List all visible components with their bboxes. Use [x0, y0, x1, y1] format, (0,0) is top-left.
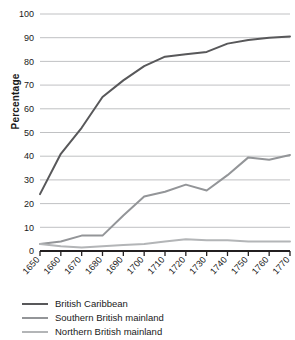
y-tick-label: 20	[24, 199, 34, 209]
y-tick-label: 10	[24, 223, 34, 233]
x-tick-label: 1690	[104, 255, 125, 277]
x-tick-label: 1670	[62, 255, 83, 277]
y-tick-label: 60	[24, 104, 34, 114]
gridlines-group	[40, 14, 290, 227]
legend-swatch-series-2	[22, 331, 48, 333]
x-tick-label: 1660	[41, 255, 62, 277]
legend-swatch-series-0	[22, 303, 48, 305]
series-lines-group	[40, 37, 290, 248]
series-line-1	[40, 155, 290, 244]
legend: British Caribbean Southern British mainl…	[22, 297, 282, 339]
x-tick-label: 1720	[166, 255, 187, 277]
y-tick-label: 100	[19, 9, 34, 19]
x-tick-label: 1650	[21, 255, 42, 277]
x-tick-label: 1750	[229, 255, 250, 277]
legend-item: British Caribbean	[22, 297, 282, 311]
x-tick-label: 1760	[250, 255, 271, 277]
y-tick-label: 90	[24, 33, 34, 43]
x-tick-label: 1700	[125, 255, 146, 277]
x-axis-group	[40, 251, 290, 256]
legend-swatch-series-1	[22, 317, 48, 319]
y-tick-labels-group: 0102030405060708090100	[19, 9, 34, 256]
x-tick-label: 1710	[146, 255, 167, 277]
x-tick-label: 1680	[83, 255, 104, 277]
legend-label-series-1: Southern British mainland	[55, 313, 164, 323]
y-tick-label: 40	[24, 151, 34, 161]
x-tick-label: 1770	[271, 255, 292, 277]
legend-item: Northern British mainland	[22, 325, 282, 339]
x-tick-labels-group: 1650166016701680169017001710172017301740…	[21, 255, 292, 277]
series-line-0	[40, 37, 290, 195]
legend-label-series-0: British Caribbean	[55, 299, 128, 309]
y-tick-label: 70	[24, 80, 34, 90]
y-tick-label: 50	[24, 128, 34, 138]
plot-area: 0102030405060708090100 16501660167016801…	[0, 0, 295, 300]
x-tick-label: 1730	[187, 255, 208, 277]
legend-label-series-2: Northern British mainland	[55, 327, 162, 337]
line-chart: Percentage 0102030405060708090100 165016…	[0, 0, 295, 340]
x-tick-label: 1740	[208, 255, 229, 277]
legend-item: Southern British mainland	[22, 311, 282, 325]
y-tick-label: 80	[24, 57, 34, 67]
y-tick-label: 30	[24, 175, 34, 185]
series-line-2	[40, 239, 290, 247]
